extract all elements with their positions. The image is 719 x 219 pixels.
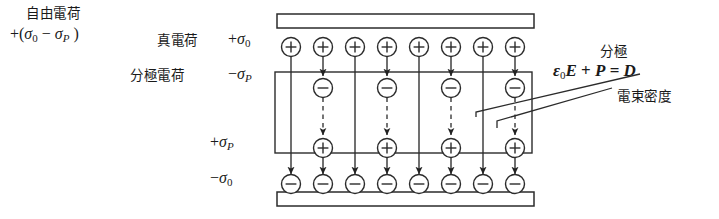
charge-plus — [442, 139, 461, 158]
charge-minus — [506, 175, 525, 194]
charge-plus — [314, 139, 333, 158]
annotation-leader-lines — [476, 74, 640, 128]
charge-minus — [442, 175, 461, 194]
bound-positive-value: +σP — [210, 134, 234, 153]
charge-minus — [506, 79, 525, 98]
free-charge-title: 自由電荷 — [26, 6, 80, 20]
free-charge-value: +(σ0 − σP ) — [10, 26, 79, 45]
top-electrode-plate — [277, 14, 534, 28]
charge-minus — [314, 175, 333, 194]
true-positive-row — [282, 38, 525, 57]
flux-density-title: 電束密度 — [617, 89, 671, 103]
charge-plus — [378, 139, 397, 158]
charge-plus — [378, 38, 397, 57]
displacement-equation: ε0E + P = D — [553, 62, 636, 82]
charge-plus — [346, 38, 365, 57]
charge-minus — [378, 79, 397, 98]
true-charge-title: 真電荷 — [157, 33, 198, 47]
charge-plus — [506, 139, 525, 158]
true-negative-value: −σ0 — [210, 170, 232, 189]
true-negative-row — [282, 175, 525, 194]
charge-plus — [506, 38, 525, 57]
charge-plus — [442, 38, 461, 57]
charge-minus — [410, 175, 429, 194]
charge-minus — [378, 175, 397, 194]
charge-minus — [314, 79, 333, 98]
charge-minus — [474, 175, 493, 194]
figure-canvas: 自由電荷 +(σ0 − σP ) 真電荷 +σ0 分極電荷 −σP +σP −σ… — [0, 0, 719, 219]
charge-plus — [474, 38, 493, 57]
true-charge-value: +σ0 — [228, 31, 250, 50]
charge-minus — [346, 175, 365, 194]
polarization-title: 分極 — [600, 44, 627, 58]
dielectric-slab — [275, 72, 532, 153]
charge-plus — [314, 38, 333, 57]
charge-plus — [282, 38, 301, 57]
bottom-electrode-plate — [277, 192, 534, 206]
charge-minus — [442, 79, 461, 98]
charge-plus — [410, 38, 429, 57]
polarization-charge-title: 分極電荷 — [130, 68, 184, 82]
polarization-charge-value: −σP — [228, 66, 252, 85]
capacitor-dielectric-diagram — [0, 0, 719, 219]
charge-minus — [282, 175, 301, 194]
